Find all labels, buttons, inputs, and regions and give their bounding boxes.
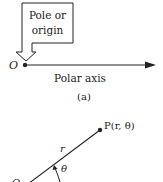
radius-ray xyxy=(28,130,100,182)
pole-label: O xyxy=(9,59,18,72)
callout-line-2: origin xyxy=(32,24,64,36)
figure-a: Pole or origin O Polar axis (a) xyxy=(9,3,156,102)
figure-b: P(r, θ) r θ O xyxy=(12,120,135,182)
radius-label: r xyxy=(60,143,66,154)
pole-label-b-partial: O xyxy=(12,177,20,182)
callout-line-1: Pole or xyxy=(29,9,67,21)
polar-axis-arrowhead-icon xyxy=(145,62,156,69)
point-p xyxy=(98,128,102,132)
point-p-label: P(r, θ) xyxy=(104,120,135,131)
figure-a-caption: (a) xyxy=(77,91,91,102)
angle-label: θ xyxy=(61,163,67,174)
polar-axis-label: Polar axis xyxy=(54,72,106,84)
angle-arc xyxy=(55,168,60,182)
polar-coordinates-diagram: Pole or origin O Polar axis (a) P(r, θ) … xyxy=(0,0,163,182)
